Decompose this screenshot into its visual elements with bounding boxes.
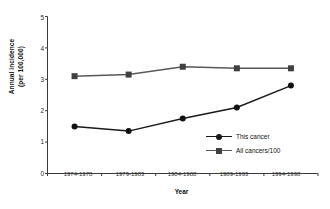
- legend-entry-all-cancers: All cancers/100: [206, 145, 280, 156]
- data-point-marker: [288, 65, 294, 71]
- legend-marker-this-cancer: [206, 132, 232, 141]
- data-point-marker: [180, 64, 186, 70]
- series-this-cancer: [72, 83, 294, 135]
- data-series-layer: [72, 64, 294, 134]
- plot-area: [0, 0, 330, 209]
- data-point-marker: [288, 83, 294, 89]
- legend-label-all-cancers: All cancers/100: [236, 147, 280, 154]
- data-point-marker: [126, 72, 132, 78]
- legend-marker-all-cancers: [206, 146, 232, 155]
- data-point-marker: [126, 128, 132, 134]
- data-point-marker: [72, 123, 78, 129]
- data-point-marker: [72, 73, 78, 79]
- data-point-marker: [180, 116, 186, 122]
- legend-entry-this-cancer: This cancer: [206, 131, 270, 142]
- chart-figure: . Annual incidence (per 100,000) 5 4 3 2…: [0, 0, 330, 209]
- series-line: [75, 86, 291, 132]
- legend-label-this-cancer: This cancer: [236, 133, 270, 140]
- data-point-marker: [234, 105, 240, 111]
- series-all-cancers: [72, 64, 294, 79]
- data-point-marker: [234, 65, 240, 71]
